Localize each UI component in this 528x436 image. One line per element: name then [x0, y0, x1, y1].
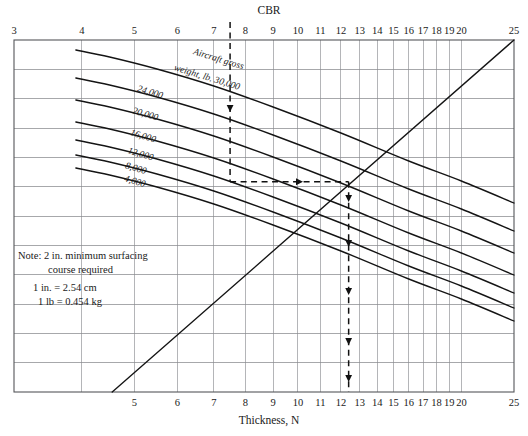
note-block: Note: 2 in. minimum surfacing course req…: [18, 250, 149, 307]
gross-weight-curve: [76, 168, 514, 321]
top-tick-label: 9: [270, 25, 275, 36]
bottom-tick-label: 5: [132, 397, 137, 408]
note-line-3: 1 in. = 2.54 cm: [33, 282, 97, 293]
curve-labels: Aircraft grossweight, lb. 30,00024,00020…: [123, 46, 245, 189]
top-tick-label: 5: [132, 25, 137, 36]
bottom-tick-label: 7: [211, 397, 216, 408]
curve-label: 12,000: [127, 145, 155, 162]
bottom-tick-label: 17: [418, 397, 429, 408]
bottom-tick-label: 9: [270, 397, 275, 408]
bottom-tick-label: 20: [456, 397, 467, 408]
bottom-tick-label: 11: [315, 397, 325, 408]
arrow-head: [296, 178, 303, 185]
arrow-head: [345, 338, 352, 345]
top-axis-title: CBR: [257, 4, 280, 16]
bottom-axis-ticks: 56789101112131415161718192025: [132, 397, 519, 408]
top-tick-label: 8: [243, 25, 248, 36]
top-tick-label: 15: [388, 25, 399, 36]
note-line-2: course required: [48, 264, 114, 275]
nomograph-figure: 3456789101112131415161718192025 56789101…: [0, 0, 528, 436]
bottom-tick-label: 16: [404, 397, 415, 408]
arrow-head: [345, 240, 352, 247]
bottom-tick-label: 8: [243, 397, 248, 408]
arrow-head: [227, 105, 234, 112]
bottom-tick-label: 6: [175, 397, 180, 408]
bottom-tick-label: 18: [431, 397, 442, 408]
top-tick-label: 25: [509, 25, 520, 36]
top-tick-label: 3: [11, 25, 16, 36]
family-label: Aircraft gross: [191, 46, 245, 71]
grid-layer: [14, 40, 514, 392]
top-tick-label: 14: [372, 25, 383, 36]
bottom-tick-label: 12: [336, 397, 347, 408]
top-tick-label: 19: [444, 25, 455, 36]
note-line-1: Note: 2 in. minimum surfacing: [18, 250, 149, 261]
top-tick-label: 20: [456, 25, 467, 36]
arrow-head: [345, 195, 352, 202]
top-tick-label: 16: [404, 25, 415, 36]
top-tick-label: 18: [431, 25, 442, 36]
bottom-tick-label: 19: [444, 397, 455, 408]
top-tick-label: 10: [293, 25, 304, 36]
bottom-tick-label: 13: [355, 397, 366, 408]
bottom-axis-title: Thickness, N: [239, 414, 300, 427]
bottom-tick-label: 25: [509, 397, 520, 408]
bottom-tick-label: 10: [293, 397, 304, 408]
top-axis-ticks: 3456789101112131415161718192025: [11, 25, 519, 36]
top-tick-label: 12: [336, 25, 347, 36]
gross-weight-curve: [76, 140, 514, 293]
top-tick-label: 17: [418, 25, 429, 36]
top-tick-label: 11: [315, 25, 325, 36]
curve-label: 20,000: [132, 105, 160, 122]
curve-label: 16,000: [129, 127, 157, 144]
arrow-head: [345, 375, 352, 382]
bottom-tick-label: 14: [372, 397, 383, 408]
note-line-4: 1 lb = 0.454 kg: [38, 296, 103, 307]
bottom-tick-label: 15: [388, 397, 399, 408]
curve-label: 24,000: [136, 83, 164, 100]
top-tick-label: 4: [79, 25, 85, 36]
top-tick-label: 7: [211, 25, 216, 36]
arrow-head: [345, 288, 352, 295]
top-tick-label: 6: [175, 25, 180, 36]
top-tick-label: 13: [355, 25, 366, 36]
nomograph-svg: 3456789101112131415161718192025 56789101…: [0, 0, 528, 436]
